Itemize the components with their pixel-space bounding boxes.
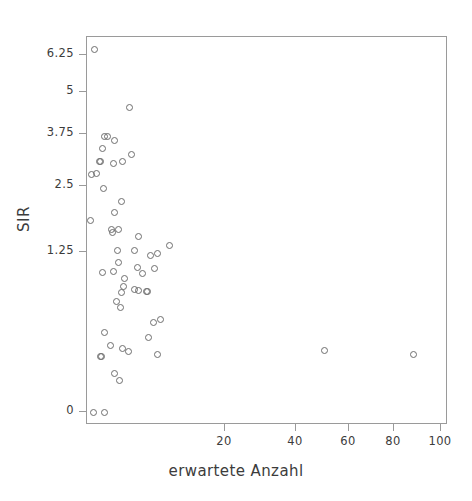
- y-tick-label: 6.25: [18, 46, 74, 60]
- data-point: [118, 198, 125, 205]
- data-point: [151, 265, 158, 272]
- data-point: [87, 217, 94, 224]
- data-point: [410, 351, 417, 358]
- x-tick-label: 20: [199, 434, 249, 448]
- data-point: [119, 158, 126, 165]
- data-point: [135, 233, 142, 240]
- y-tick-mark: [79, 91, 86, 92]
- data-point: [128, 151, 135, 158]
- x-tick-label: 60: [323, 434, 373, 448]
- data-point: [139, 270, 146, 277]
- y-tick-label: 0: [18, 403, 74, 417]
- y-tick-mark: [79, 251, 86, 252]
- x-tick-label: 80: [368, 434, 418, 448]
- x-tick-mark: [348, 424, 349, 431]
- data-point: [100, 185, 107, 192]
- data-point: [111, 209, 118, 216]
- data-point: [321, 347, 328, 354]
- data-point: [111, 370, 118, 377]
- x-tick-mark: [224, 424, 225, 431]
- data-point: [97, 158, 104, 165]
- data-point: [101, 329, 108, 336]
- data-point: [99, 145, 106, 152]
- data-point: [110, 160, 117, 167]
- data-point: [150, 319, 157, 326]
- y-axis-label: SIR: [15, 189, 33, 249]
- data-point: [104, 133, 111, 140]
- y-tick-mark: [79, 185, 86, 186]
- data-point: [111, 137, 118, 144]
- data-point: [99, 269, 106, 276]
- data-point: [116, 377, 123, 384]
- data-point: [144, 288, 151, 295]
- data-point: [93, 170, 100, 177]
- data-point: [135, 287, 142, 294]
- data-point: [118, 289, 125, 296]
- y-tick-mark: [79, 133, 86, 134]
- data-point: [154, 351, 161, 358]
- x-tick-mark: [393, 424, 394, 431]
- data-point: [110, 268, 117, 275]
- data-point: [117, 304, 124, 311]
- data-point: [107, 342, 114, 349]
- x-axis-label: erwartete Anzahl: [0, 462, 472, 480]
- y-tick-mark: [79, 411, 86, 412]
- data-point: [115, 226, 122, 233]
- data-point: [90, 409, 97, 416]
- data-point: [115, 259, 122, 266]
- plot-area-frame: [86, 36, 447, 424]
- data-point: [121, 275, 128, 282]
- y-tick-label: 5: [18, 83, 74, 97]
- data-point: [126, 104, 133, 111]
- data-point: [101, 409, 108, 416]
- data-point: [147, 252, 154, 259]
- y-tick-label: 3.75: [18, 125, 74, 139]
- data-point: [91, 46, 98, 53]
- x-tick-label: 40: [270, 434, 320, 448]
- scatter-plot-figure: 01.252.53.7556.25 20406080100 SIR erwart…: [0, 0, 472, 501]
- x-tick-mark: [295, 424, 296, 431]
- data-point: [125, 348, 132, 355]
- y-tick-mark: [79, 54, 86, 55]
- x-tick-mark: [440, 424, 441, 431]
- data-point: [145, 334, 152, 341]
- data-point: [98, 353, 105, 360]
- data-points-layer: [87, 37, 446, 423]
- data-point: [166, 242, 173, 249]
- x-tick-label: 100: [415, 434, 465, 448]
- data-point: [131, 247, 138, 254]
- data-point: [154, 250, 161, 257]
- data-point: [157, 316, 164, 323]
- data-point: [114, 247, 121, 254]
